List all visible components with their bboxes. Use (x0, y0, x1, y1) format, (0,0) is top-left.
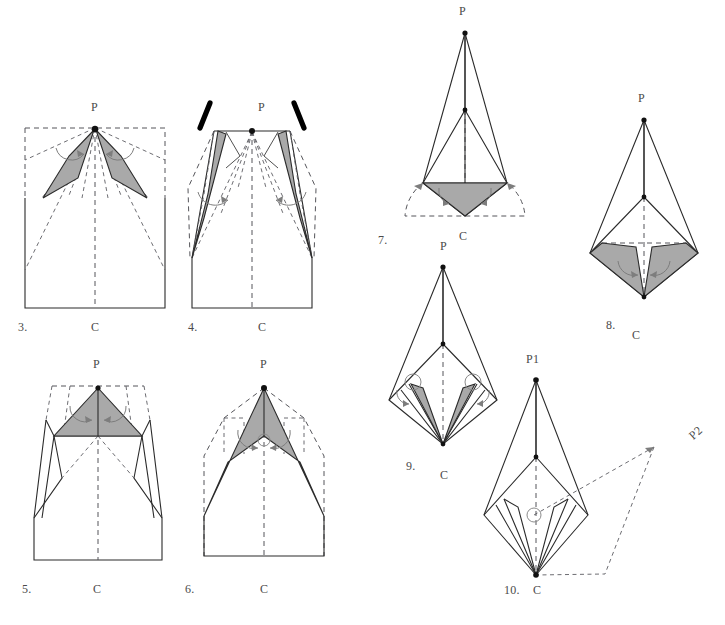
figure-6-apex-label: P (260, 357, 267, 372)
fig10-inner-spike-folds (504, 499, 568, 575)
figure-10-apex-label: P1 (526, 352, 539, 367)
fig9-mid-dot (441, 342, 446, 347)
fig6-apex-dot (261, 385, 267, 391)
fig4-crease-left-mid (220, 132, 252, 216)
fig7-arrowhead-corner-left (414, 183, 423, 190)
fig9-shaded-spike-right (443, 384, 475, 444)
figure-9-number: 9. (406, 459, 416, 474)
fig5-crease-left (62, 436, 98, 478)
figure-4-number: 4. (188, 320, 198, 335)
fig4-crease-left-inner (238, 132, 252, 188)
figure-5-apex-label: P (93, 357, 100, 372)
fig7-shaded-diamond (423, 183, 507, 216)
figure-8-number: 8. (606, 318, 616, 333)
figure-6-number: 6. (185, 582, 195, 597)
fig7-apex-dot (462, 30, 467, 35)
fig6-arrowhead-right (270, 444, 277, 451)
figure-3-number: 3. (18, 320, 28, 335)
figure-7 (395, 28, 535, 223)
figure-3 (20, 120, 170, 315)
fig9-base-dot (441, 442, 446, 447)
fig7-arrowhead-corner-right (507, 183, 516, 190)
fig8-shaded-flap-right (644, 243, 698, 297)
fig9-arrowhead-left (403, 400, 409, 407)
fig10-mid-dot (534, 455, 539, 460)
figure-7-base-label: C (459, 229, 467, 244)
fig8-apex-dot (641, 117, 646, 122)
fig9-apex-dot (440, 264, 445, 269)
fig10-projection-line-bottom (535, 574, 605, 575)
fig3-shaded-flap-left (43, 130, 94, 198)
fig6-arrowhead-left (251, 444, 258, 451)
figure-6 (186, 378, 342, 568)
fig8-mid-dot (642, 195, 647, 200)
figure-7-apex-label: P (459, 4, 466, 19)
figure-4-apex-label: P (258, 100, 265, 115)
fig8-shaded-flap-left (590, 243, 644, 297)
fig4-crease-right-mid (252, 132, 284, 216)
figure-10-base-label: C (533, 583, 541, 598)
fig10-projection-line-to-p2 (534, 447, 654, 515)
fig10-base-dot (533, 572, 539, 578)
figure-8-base-label: C (632, 328, 640, 343)
fig3-apex-dot (92, 126, 98, 132)
figure-10-number: 10. (504, 583, 520, 598)
figure-8 (578, 115, 710, 305)
figure-3-base-label: C (91, 320, 99, 335)
figure-4-base-label: C (258, 320, 266, 335)
figure-8-apex-label: P (638, 91, 645, 106)
fig9-shaded-spike-left (411, 384, 443, 444)
fig10-projection-line-right (605, 447, 654, 574)
fig5-apex-dot (95, 385, 100, 390)
figure-5 (18, 378, 178, 568)
fig4-shaded-flap-left (192, 131, 226, 258)
fig4-paper-outline (192, 131, 312, 308)
fig7-mid-dot (463, 108, 468, 113)
fig10-apex-dot (533, 377, 539, 383)
fig8-base-dot (642, 295, 647, 300)
figure-6-base-label: C (260, 582, 268, 597)
fig4-black-stroke-right (294, 103, 304, 128)
diagram-sheet: P 3. C P 4. (0, 0, 725, 625)
fig3-shaded-flap-right (96, 130, 147, 198)
fig5-crease-right (98, 436, 134, 478)
figure-7-number: 7. (378, 233, 388, 248)
figure-9-apex-label: P (440, 239, 447, 254)
figure-3-apex-label: P (91, 100, 98, 115)
figure-4 (182, 98, 340, 316)
fig4-black-stroke-left (200, 103, 210, 128)
figure-9-base-label: C (440, 468, 448, 483)
figure-5-number: 5. (22, 582, 32, 597)
figure-5-base-label: C (93, 582, 101, 597)
fig4-crease-right-inner (252, 132, 266, 188)
fig4-apex-dot (249, 128, 255, 134)
fig4-shaded-flap-right (278, 131, 312, 258)
figure-10 (478, 375, 713, 590)
